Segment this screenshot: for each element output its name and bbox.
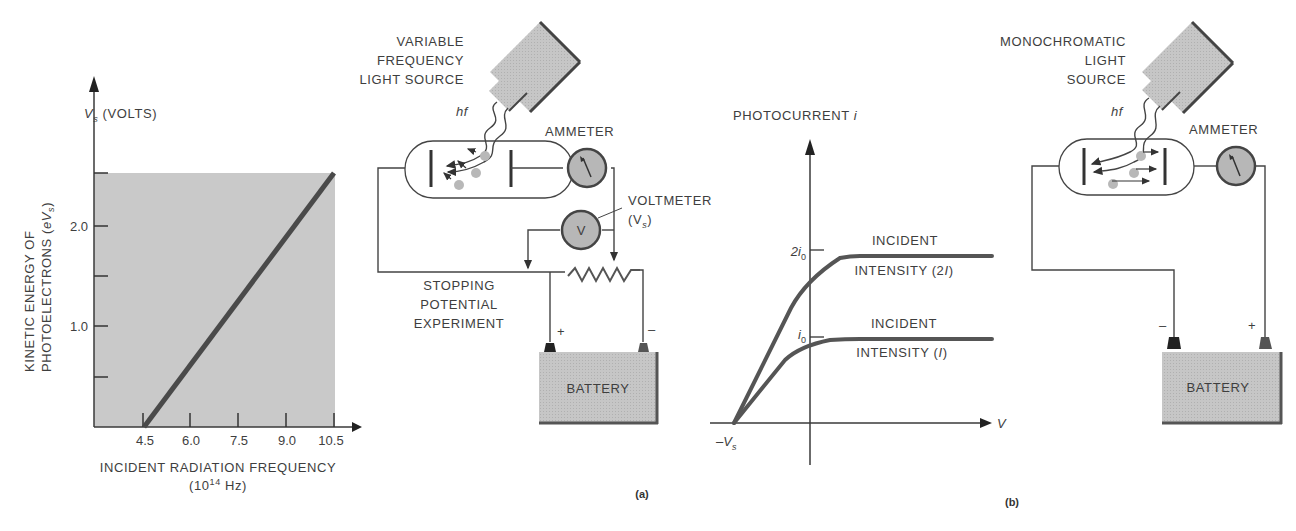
voltmeter-icon: V — [562, 211, 600, 249]
light-source-label-line2: FREQUENCY — [377, 53, 464, 68]
tick-label-neg-vs: –Vs — [715, 434, 737, 452]
y-tick-1: 1.0 — [70, 319, 88, 334]
x-axis-label-line1: INCIDENT RADIATION FREQUENCY — [100, 460, 337, 475]
monochromatic-light-source-icon — [1142, 22, 1233, 113]
battery-minus-sign: – — [1159, 318, 1167, 333]
x-tick-9-0: 9.0 — [278, 433, 296, 448]
wire-voltmeter-left — [528, 230, 560, 268]
ammeter-icon — [568, 149, 606, 187]
experiment-label-line3: EXPERIMENT — [414, 316, 505, 331]
battery-plus-sign: + — [557, 324, 565, 339]
graph-b: PHOTOCURRENT i V 2i0 i0 –Vs INCIDENT INT… — [710, 108, 1007, 465]
voltmeter-leader-line — [598, 208, 622, 218]
ammeter-icon — [1217, 147, 1255, 185]
battery-terminal-plus-icon — [1259, 337, 1272, 349]
x-axis-arrow-icon — [352, 422, 362, 432]
panel-label-b: (b) — [1005, 496, 1019, 508]
wire-ammeter-to-battery-plus — [1256, 166, 1265, 342]
photon-label-hf: hf — [456, 104, 469, 119]
circuit-a: VARIABLE FREQUENCY LIGHT SOURCE hf — [360, 22, 712, 424]
curve-2I-label-line2: INTENSITY (2I) — [854, 263, 953, 278]
photon-label-hf: hf — [1111, 104, 1124, 119]
x-axis-title: V — [997, 416, 1007, 431]
battery-plus-sign: + — [1248, 318, 1256, 333]
x-tick-6-0: 6.0 — [182, 433, 200, 448]
wire-cathode-to-battery-minus — [1032, 166, 1174, 342]
variable-light-source-icon — [489, 22, 580, 112]
battery-minus-sign: – — [648, 322, 656, 337]
tick-label-2i0: 2i0 — [790, 244, 806, 262]
light-source-label-line2: LIGHT — [1085, 53, 1126, 68]
y-axis-label-line1: KINETIC ENERGY OF — [22, 231, 37, 372]
tick-label-i0: i0 — [798, 327, 806, 345]
experiment-label-line2: POTENTIAL — [420, 297, 498, 312]
svg-text:V: V — [577, 223, 586, 238]
wire-battery-minus — [640, 270, 643, 342]
light-source-label-line1: MONOCHROMATIC — [1000, 34, 1126, 49]
x-tick-7-5: 7.5 — [230, 433, 248, 448]
graph-a: 2.0 1.0 4.5 6.0 7.5 9.0 10.5 Vs (VOLTS) … — [22, 76, 362, 493]
y-tick-2: 2.0 — [70, 219, 88, 234]
panel-label-a: (a) — [635, 488, 649, 500]
curve-I-label-line2: INTENSITY (I) — [856, 345, 947, 360]
x-axis-arrow-icon — [980, 418, 992, 428]
experiment-label-line1: STOPPING — [423, 278, 495, 293]
curve-I-label-line1: INCIDENT — [871, 316, 937, 331]
wire-cathode — [378, 168, 565, 272]
battery-label: BATTERY — [567, 381, 630, 396]
curve-2I-label-line1: INCIDENT — [872, 233, 938, 248]
x-axis-label-line2: (1014 Hz) — [189, 477, 247, 493]
battery-terminal-plus-icon — [544, 343, 556, 352]
rheostat — [568, 268, 640, 281]
circuit-b: MONOCHROMATIC LIGHT SOURCE hf — [1000, 22, 1282, 424]
voltmeter-label: VOLTMETER — [628, 193, 712, 208]
battery-label: BATTERY — [1187, 380, 1250, 395]
y-axis-arrow-icon — [89, 76, 99, 92]
y-axis-arrow-icon — [805, 139, 815, 155]
battery-terminal-minus-icon — [1167, 337, 1181, 349]
ammeter-label: AMMETER — [545, 124, 614, 139]
y-axis-title: Vs (VOLTS) — [84, 106, 157, 124]
plot-area-shading — [94, 173, 335, 427]
phototube — [1059, 139, 1194, 195]
x-tick-10-5: 10.5 — [318, 433, 343, 448]
y-axis-label-line2: PHOTOELECTRONS (eVs) — [39, 202, 56, 372]
light-source-label-line3: LIGHT SOURCE — [360, 72, 464, 87]
voltmeter-sublabel: (Vs) — [628, 212, 652, 230]
wire-to-rheostat — [611, 168, 614, 260]
light-source-label-line1: VARIABLE — [397, 34, 464, 49]
x-tick-4-5: 4.5 — [136, 433, 154, 448]
photocurrent-axis-title: PHOTOCURRENT i — [733, 108, 858, 123]
electrons — [1108, 151, 1158, 189]
battery-terminal-minus-icon — [638, 343, 649, 352]
light-source-label-line3: SOURCE — [1067, 72, 1126, 87]
photoelectric-figure: 2.0 1.0 4.5 6.0 7.5 9.0 10.5 Vs (VOLTS) … — [0, 0, 1296, 531]
ammeter-label: AMMETER — [1189, 122, 1258, 137]
